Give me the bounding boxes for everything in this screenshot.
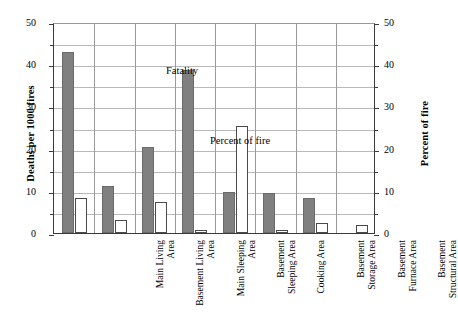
gridline — [54, 45, 374, 46]
axis-tick — [50, 130, 54, 131]
gridline — [54, 66, 374, 67]
gridline — [54, 108, 374, 109]
y-axis-left-tick-label: 30 — [6, 102, 36, 112]
x-axis-category-label: BasementSleeping Area — [275, 240, 288, 322]
x-axis-category-label: Main SleepingArea — [235, 240, 248, 322]
y-axis-left-tick-label: 50 — [6, 18, 36, 28]
y-axis-right-tick-label: 20 — [384, 145, 414, 155]
bar-percent-of-fire — [75, 198, 87, 233]
axis-tick — [49, 151, 54, 152]
y-axis-left-tick-label: 0 — [6, 229, 36, 239]
axis-tick — [374, 130, 378, 131]
y-axis-right-tick-label: 10 — [384, 187, 414, 197]
bar-fatality — [142, 147, 154, 233]
axis-tick — [49, 193, 54, 194]
axis-tick — [374, 172, 378, 173]
gridline — [54, 172, 374, 173]
series-annotation: Fatality — [166, 65, 198, 76]
axis-tick — [374, 108, 379, 109]
axis-tick — [49, 24, 54, 25]
axis-tick — [374, 24, 379, 25]
axis-tick — [374, 235, 379, 236]
axis-tick — [50, 214, 54, 215]
axis-tick — [49, 108, 54, 109]
y-axis-right-tick-label: 0 — [384, 229, 414, 239]
axis-tick — [50, 87, 54, 88]
category-separator — [175, 24, 176, 233]
bar-fatality — [263, 193, 275, 233]
bar-fatality — [303, 198, 315, 233]
x-axis-category-label: Cooking Area — [315, 240, 328, 322]
x-axis-category-label: Basement LivingArea — [194, 240, 207, 322]
series-annotation: Percent of fire — [210, 135, 270, 146]
category-separator — [94, 24, 95, 233]
axis-tick — [374, 87, 378, 88]
bar-fatality — [182, 70, 194, 233]
bar-fatality — [223, 192, 235, 233]
bar-fatality — [62, 52, 74, 233]
gridline — [54, 151, 374, 152]
category-separator — [296, 24, 297, 233]
y-axis-right-tick-label: 50 — [384, 18, 414, 28]
y-axis-left-tick-label: 20 — [6, 145, 36, 155]
bar-percent-of-fire — [155, 202, 167, 233]
axis-tick — [374, 214, 378, 215]
x-axis-category-label: BasementStorage Area — [355, 240, 368, 322]
y-axis-right-tick-label: 30 — [384, 102, 414, 112]
x-axis-category-label: BasementFurnace Area — [396, 240, 409, 322]
axis-tick — [374, 151, 379, 152]
bar-percent-of-fire — [276, 230, 288, 233]
bar-percent-of-fire — [195, 230, 207, 233]
bar-fatality — [102, 186, 114, 233]
axis-tick — [374, 45, 378, 46]
category-separator — [215, 24, 216, 233]
plot-area: FatalityPercent of fire — [53, 23, 375, 234]
category-separator — [135, 24, 136, 233]
axis-tick — [49, 66, 54, 67]
axis-tick — [50, 45, 54, 46]
y-axis-left-tick-label: 10 — [6, 187, 36, 197]
y-axis-right-tick-label: 40 — [384, 60, 414, 70]
gridline — [54, 130, 374, 131]
axis-tick — [374, 193, 379, 194]
axis-tick — [374, 66, 379, 67]
axis-tick — [50, 172, 54, 173]
x-axis-category-label: Main LivingArea — [154, 240, 167, 322]
gridline — [54, 87, 374, 88]
category-separator — [255, 24, 256, 233]
bar-percent-of-fire — [356, 225, 368, 233]
y-axis-right-title: Percent of fire — [419, 49, 430, 219]
bar-percent-of-fire — [115, 220, 127, 233]
y-axis-left-tick-label: 40 — [6, 60, 36, 70]
axis-tick — [49, 235, 54, 236]
bar-percent-of-fire — [316, 223, 328, 233]
x-axis-category-label: BasementStructural Area — [436, 240, 449, 322]
category-separator — [336, 24, 337, 233]
